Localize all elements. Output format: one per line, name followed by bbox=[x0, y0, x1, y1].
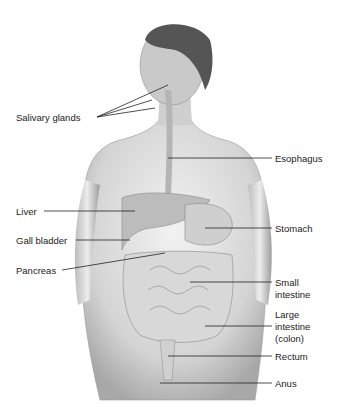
label-liver: Liver bbox=[16, 206, 37, 217]
label-large-intestine-2: intestine bbox=[275, 321, 310, 332]
label-stomach: Stomach bbox=[275, 223, 313, 234]
label-esophagus: Esophagus bbox=[275, 153, 323, 164]
label-gall-bladder: Gall bladder bbox=[16, 235, 67, 246]
label-pancreas: Pancreas bbox=[16, 265, 56, 276]
esophagus bbox=[168, 90, 170, 195]
label-small-intestine-2: intestine bbox=[275, 289, 310, 300]
label-rectum: Rectum bbox=[275, 351, 308, 362]
label-large-intestine-3: (colon) bbox=[275, 333, 304, 344]
digestive-system-illustration bbox=[0, 0, 337, 407]
label-small-intestine-1: Small bbox=[275, 277, 299, 288]
label-large-intestine-1: Large bbox=[275, 309, 299, 320]
label-salivary-glands: Salivary glands bbox=[16, 112, 80, 123]
intestines bbox=[123, 251, 233, 342]
label-anus: Anus bbox=[275, 378, 297, 389]
